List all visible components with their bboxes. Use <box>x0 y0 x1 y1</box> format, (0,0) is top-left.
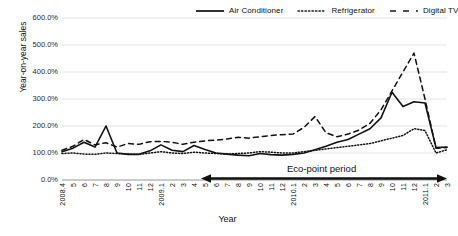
y-tick-label: 200.0% <box>10 122 58 130</box>
x-tick-label: 10 <box>257 183 264 191</box>
y-tick-label: 0.0% <box>10 176 58 184</box>
x-tick-label: 5 <box>202 183 209 187</box>
eco-point-period-arrow <box>201 174 447 183</box>
x-tick-label: 12 <box>147 183 154 191</box>
x-tick-label: 9 <box>378 183 385 187</box>
legend-label-refrigerator: Refrigerator <box>331 7 374 15</box>
x-tick-label: 5 <box>334 183 341 187</box>
x-tick-label: 8 <box>367 183 374 187</box>
legend-item-digital-tv: Digital TV <box>389 7 458 15</box>
x-tick-label: 4 <box>191 183 198 187</box>
x-tick-label: 3 <box>444 183 451 187</box>
x-tick-label: 2011.1 <box>422 183 429 205</box>
x-tick-label: 7 <box>92 183 99 187</box>
x-tick-label: 2008.4 <box>59 183 66 206</box>
x-tick-label: 10 <box>389 183 396 191</box>
x-tick-label: 6 <box>81 183 88 187</box>
x-tick-label: 10 <box>125 183 132 191</box>
series-line-refrigerator <box>62 129 447 155</box>
x-tick-label: 9 <box>114 183 121 187</box>
y-tick-label: 300.0% <box>10 95 58 103</box>
x-tick-label: 2010.1 <box>290 183 297 206</box>
x-tick-label: 7 <box>356 183 363 187</box>
eco-point-period-label: Eco-point period <box>287 163 356 174</box>
y-tick-label: 600.0% <box>10 14 58 22</box>
legend-item-air-conditioner: Air Conditioner <box>195 7 283 15</box>
x-tick-label: 2 <box>169 183 176 187</box>
y-tick-label: 500.0% <box>10 41 58 49</box>
x-tick-label: 8 <box>103 183 110 187</box>
y-tick-label: 100.0% <box>10 149 58 157</box>
x-tick-label: 4 <box>323 183 330 187</box>
x-tick-label: 6 <box>345 183 352 187</box>
x-tick-label: 2009.1 <box>158 183 165 206</box>
x-tick-label: 11 <box>136 183 143 191</box>
solid-line-icon <box>195 7 225 15</box>
plot-area <box>62 18 447 180</box>
x-tick-label: 8 <box>235 183 242 187</box>
x-tick-label: 12 <box>411 183 418 191</box>
chart-legend: Air Conditioner Refrigerator Digital TV <box>195 7 458 15</box>
x-axis-title: Year <box>0 214 455 224</box>
x-tick-label: 9 <box>246 183 253 187</box>
x-tick-label: 3 <box>180 183 187 187</box>
x-tick-label: 7 <box>224 183 231 187</box>
x-tick-label: 12 <box>279 183 286 191</box>
x-tick-label: 2 <box>301 183 308 187</box>
legend-label-digital-tv: Digital TV <box>423 7 458 15</box>
series-lines <box>62 53 447 156</box>
dotted-line-icon <box>297 7 327 15</box>
x-tick-label: 6 <box>213 183 220 187</box>
y-tick-label: 400.0% <box>10 68 58 76</box>
dashed-line-icon <box>389 7 419 15</box>
series-line-digital-tv <box>62 53 447 150</box>
legend-label-air-conditioner: Air Conditioner <box>229 7 283 15</box>
x-tick-label: 5 <box>70 183 77 187</box>
x-tick-label: 11 <box>268 183 275 191</box>
legend-item-refrigerator: Refrigerator <box>297 7 374 15</box>
x-tick-label: 2 <box>433 183 440 187</box>
x-tick-label: 3 <box>312 183 319 187</box>
x-tick-label: 11 <box>400 183 407 191</box>
